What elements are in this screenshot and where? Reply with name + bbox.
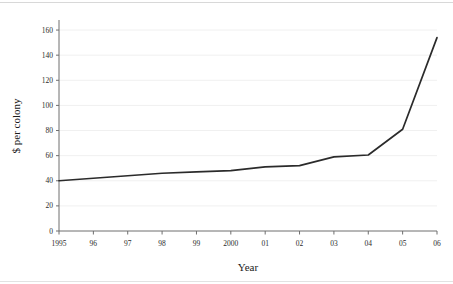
y-axis-title: $ per colony xyxy=(10,98,22,153)
y-axis-tick-label: 80 xyxy=(46,126,54,135)
x-axis-tick-label: 99 xyxy=(193,239,201,248)
x-axis-tick-label: 06 xyxy=(433,239,441,248)
x-axis-tick-label: 04 xyxy=(365,239,373,248)
y-axis-tick-labels-group: 020406080100120140160 xyxy=(42,26,54,236)
x-axis-ticks-group xyxy=(59,231,437,235)
x-axis-tick-label: 03 xyxy=(330,239,338,248)
x-axis-tick-label: 01 xyxy=(261,239,269,248)
y-axis-tick-label: 40 xyxy=(46,176,54,185)
x-axis-tick-label: 96 xyxy=(90,239,98,248)
data-series-line xyxy=(59,38,437,181)
chart-figure: 020406080100120140160 199596979899200001… xyxy=(0,0,453,284)
x-axis-tick-label: 98 xyxy=(158,239,166,248)
line-chart-canvas: 020406080100120140160 199596979899200001… xyxy=(0,0,453,284)
x-axis-title: Year xyxy=(238,261,259,273)
y-axis-tick-label: 120 xyxy=(42,76,54,85)
gridlines-group xyxy=(59,30,437,206)
x-axis-tick-labels-group: 1995969798992000010203040506 xyxy=(52,239,442,248)
x-axis-tick-label: 97 xyxy=(124,239,132,248)
x-axis-tick-label: 05 xyxy=(399,239,407,248)
x-axis-tick-label: 1995 xyxy=(52,239,67,248)
y-axis-tick-label: 20 xyxy=(46,201,54,210)
y-axis-tick-label: 160 xyxy=(42,26,54,35)
y-axis-tick-label: 0 xyxy=(49,227,53,236)
x-axis-tick-label: 02 xyxy=(296,239,304,248)
x-axis-tick-label: 2000 xyxy=(223,239,238,248)
y-axis-tick-label: 60 xyxy=(46,151,54,160)
y-axis-tick-label: 140 xyxy=(42,51,54,60)
y-axis-tick-label: 100 xyxy=(42,101,54,110)
